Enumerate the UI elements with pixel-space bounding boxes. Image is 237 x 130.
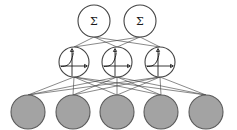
output-node-1-label: Σ [90, 15, 98, 28]
neural-network-diagram: Σ Σ [0, 0, 237, 130]
input-node-1[interactable] [11, 95, 45, 129]
network-canvas: Σ Σ [0, 0, 237, 130]
edges-hidden-to-output [74, 37, 160, 47]
output-node-2[interactable]: Σ [124, 5, 156, 37]
output-node-2-label: Σ [136, 15, 144, 28]
output-layer: Σ Σ [78, 5, 156, 37]
hidden-node-2[interactable] [102, 47, 132, 77]
input-node-5[interactable] [189, 95, 223, 129]
hidden-layer [59, 47, 175, 77]
edge-input1-hidden2 [28, 77, 117, 95]
input-node-3[interactable] [100, 95, 134, 129]
edges-input-to-hidden [28, 77, 206, 95]
hidden-node-1[interactable] [59, 47, 89, 77]
edge-input5-hidden2 [117, 77, 206, 95]
edge-input1-hidden1 [28, 77, 74, 95]
input-node-4[interactable] [144, 95, 178, 129]
output-node-1[interactable]: Σ [78, 5, 110, 37]
input-node-2[interactable] [56, 95, 90, 129]
edge-input5-hidden3 [160, 77, 206, 95]
hidden-node-3[interactable] [145, 47, 175, 77]
input-layer [11, 95, 223, 129]
